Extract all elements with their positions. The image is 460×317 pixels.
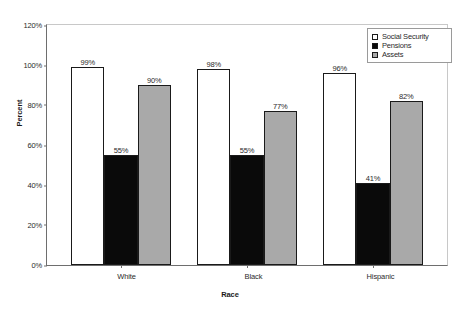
bar-group-black: 98% 55% 77% <box>197 25 297 265</box>
bar-hispanic-assets: 82% <box>390 101 423 265</box>
x-tick-mark <box>373 265 374 268</box>
bar-black-assets: 77% <box>264 111 297 265</box>
y-tick-40: 40% <box>28 181 47 190</box>
y-tick-80: 80% <box>28 100 47 109</box>
legend-label: Pensions <box>382 41 411 50</box>
x-tick-mark <box>121 265 122 268</box>
bar-white-social-security: 99% <box>71 67 104 265</box>
y-tick-120: 120% <box>24 21 47 30</box>
chart-legend: Social Security Pensions Assets <box>367 28 452 63</box>
bar-white-pensions: 55% <box>104 155 137 265</box>
legend-item-social-security: Social Security <box>372 32 447 41</box>
bar-group-white: 99% 55% 90% <box>71 25 171 265</box>
bar-label: 82% <box>399 92 413 101</box>
bar-label: 55% <box>240 146 254 155</box>
legend-swatch-icon <box>372 43 378 49</box>
y-axis-title: Percent <box>15 115 24 127</box>
bar-chart-figure: Percent 0% 20% 40% 60% 80% 100% 120% 99%… <box>0 0 460 317</box>
y-tick-20: 20% <box>28 220 47 229</box>
bar-label: 41% <box>366 174 380 183</box>
y-tick-60: 60% <box>28 141 47 150</box>
x-tick-mark <box>247 265 248 268</box>
bar-white-assets: 90% <box>138 85 171 265</box>
legend-label: Assets <box>382 50 403 59</box>
y-tick-100: 100% <box>24 61 47 70</box>
legend-label: Social Security <box>382 32 429 41</box>
bar-black-pensions: 55% <box>230 155 263 265</box>
bar-black-social-security: 98% <box>197 69 230 265</box>
bar-hispanic-social-security: 96% <box>323 73 356 265</box>
bar-label: 55% <box>114 146 128 155</box>
x-category-label-hispanic: Hispanic <box>300 272 460 281</box>
legend-swatch-icon <box>372 34 378 40</box>
bar-label: 96% <box>332 64 346 73</box>
legend-item-assets: Assets <box>372 50 447 59</box>
x-axis-title: Race <box>0 290 460 299</box>
legend-item-pensions: Pensions <box>372 41 447 50</box>
bar-label: 90% <box>147 76 161 85</box>
y-tick-0: 0% <box>32 261 47 270</box>
legend-swatch-icon <box>372 52 378 58</box>
bar-label: 77% <box>273 102 287 111</box>
bar-label: 99% <box>80 58 94 67</box>
bar-label: 98% <box>206 60 220 69</box>
bar-hispanic-pensions: 41% <box>356 183 389 265</box>
